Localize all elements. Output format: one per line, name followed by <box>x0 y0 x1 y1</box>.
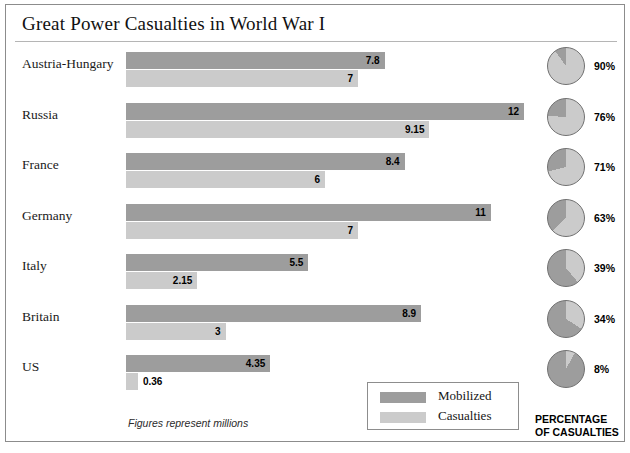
bar-group: 5.52.15 <box>126 254 524 290</box>
pie-percentage-label: 34% <box>594 313 615 325</box>
bar-group: 8.93 <box>126 305 524 341</box>
bar-value-casualties: 9.15 <box>395 121 424 138</box>
pie-chart <box>547 148 585 186</box>
country-label: Britain <box>22 309 60 325</box>
pie-chart <box>547 300 585 338</box>
bar-value-mobilized: 8.4 <box>371 153 400 170</box>
bar-mobilized <box>126 52 385 69</box>
bar-group: 8.46 <box>126 153 524 189</box>
pie-percentage-label: 76% <box>594 111 615 123</box>
legend-swatch-casualties <box>380 412 426 423</box>
country-label: Russia <box>22 107 58 123</box>
pie-chart <box>547 249 585 287</box>
country-label: Italy <box>22 258 47 274</box>
percentage-caption-line2: OF CASUALTIES <box>535 426 630 439</box>
bar-value-casualties: 7 <box>324 222 353 239</box>
bar-value-casualties: 6 <box>291 171 320 188</box>
page-bottom-strip <box>0 444 630 453</box>
bar-value-casualties: 2.15 <box>163 272 192 289</box>
percentage-caption: PERCENTAGE OF CASUALTIES <box>535 413 630 438</box>
pie-percentage-label: 8% <box>594 363 609 375</box>
bar-mobilized <box>126 305 421 322</box>
percentage-caption-line1: PERCENTAGE <box>535 413 630 426</box>
pie-chart <box>547 199 585 237</box>
pie-percentage-label: 90% <box>594 60 615 72</box>
pie-chart <box>547 350 585 388</box>
legend: Mobilized Casualties <box>367 382 519 430</box>
bar-casualties <box>126 121 429 138</box>
country-label: France <box>22 157 59 173</box>
legend-label-mobilized: Mobilized <box>438 388 491 404</box>
page-title: Great Power Casualties in World War I <box>22 13 325 35</box>
bar-value-mobilized: 12 <box>490 103 519 120</box>
chart-frame: Great Power Casualties in World War I Au… <box>5 4 625 442</box>
country-label: Germany <box>22 208 72 224</box>
title-divider <box>15 41 617 42</box>
bar-mobilized <box>126 204 491 221</box>
bar-value-mobilized: 7.8 <box>351 52 380 69</box>
pie-chart <box>547 98 585 136</box>
bar-mobilized <box>126 153 405 170</box>
bar-mobilized <box>126 103 524 120</box>
bar-value-mobilized: 8.9 <box>387 305 416 322</box>
bar-value-mobilized: 4.35 <box>236 355 265 372</box>
country-label: US <box>22 359 39 375</box>
cut-off-caption <box>18 444 20 449</box>
bar-value-casualties: 0.36 <box>143 373 162 390</box>
bar-value-casualties: 7 <box>324 70 353 87</box>
bar-group: 117 <box>126 204 524 240</box>
legend-label-casualties: Casualties <box>438 408 491 424</box>
bar-casualties <box>126 373 138 390</box>
footnote: Figures represent millions <box>128 417 248 429</box>
bar-group: 7.87 <box>126 52 524 88</box>
pie-percentage-label: 71% <box>594 161 615 173</box>
pie-percentage-label: 63% <box>594 212 615 224</box>
bar-group: 129.15 <box>126 103 524 139</box>
legend-swatch-mobilized <box>380 392 426 403</box>
pie-percentage-label: 39% <box>594 262 615 274</box>
country-label: Austria-Hungary <box>22 56 113 72</box>
bar-value-casualties: 3 <box>192 323 221 340</box>
pie-chart <box>547 47 585 85</box>
bar-value-mobilized: 5.5 <box>274 254 303 271</box>
bar-value-mobilized: 11 <box>457 204 486 221</box>
